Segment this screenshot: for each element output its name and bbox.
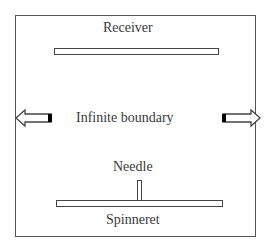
receiver-label: Receiver (103, 20, 153, 36)
infinite-boundary-label: Infinite boundary (76, 110, 174, 126)
spinneret-label: Spinneret (106, 212, 160, 228)
needle (137, 180, 142, 201)
receiver-plate (54, 48, 219, 55)
left-arrow-icon (15, 108, 55, 128)
spinneret-plate (56, 200, 223, 207)
needle-label: Needle (113, 159, 153, 175)
right-arrow-icon (221, 108, 261, 128)
